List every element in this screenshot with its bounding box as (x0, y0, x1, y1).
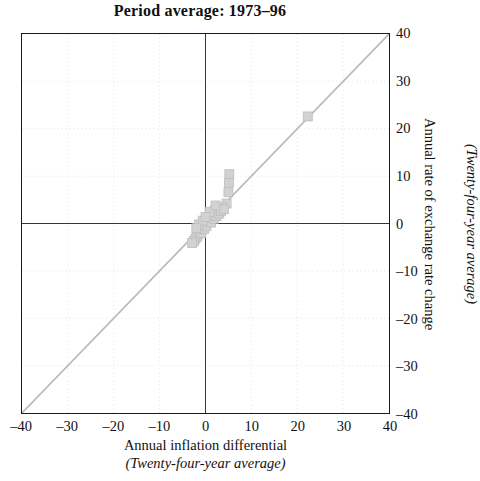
data-point (211, 201, 220, 210)
x-axis-title: Annual inflation differential (21, 437, 390, 454)
x-axis-subtitle: (Twenty-four-year average) (21, 455, 390, 472)
y-axis-subtitle-column: (Twenty-four-year average) (448, 33, 476, 414)
x-tick-label: –20 (102, 418, 124, 435)
x-tick-label: –40 (10, 418, 32, 435)
y-axis-title: Annual rate of exchange rate change (421, 117, 438, 329)
x-tick-label: 30 (337, 418, 352, 435)
data-point (192, 224, 201, 233)
y-tick-label: –40 (396, 406, 418, 423)
data-point (224, 178, 233, 187)
x-tick-label: –10 (149, 418, 171, 435)
data-point (224, 188, 233, 197)
plot-frame (21, 33, 390, 414)
y-tick-label: 10 (396, 167, 411, 184)
data-point (188, 238, 197, 247)
plot-area (22, 34, 389, 413)
y-tick-label: 20 (396, 120, 411, 137)
y-axis-title-group: Annual rate of exchange rate change (Twe… (424, 33, 480, 414)
x-tick-label: 20 (291, 418, 306, 435)
data-point (201, 212, 210, 221)
x-tick-label: 10 (244, 418, 259, 435)
y-axis-subtitle: (Twenty-four-year average) (463, 143, 480, 303)
x-tick-label: –30 (56, 418, 78, 435)
y-tick-label: –20 (396, 310, 418, 327)
data-point (225, 170, 234, 179)
data-points-layer (22, 34, 389, 413)
y-tick-label: 0 (396, 215, 403, 232)
scatter-plot-figure: Period average: 1973–96 –40–30–20–100102… (0, 0, 480, 481)
data-point (303, 112, 312, 121)
y-tick-label: 30 (396, 72, 411, 89)
x-tick-label: 0 (202, 418, 209, 435)
data-point (219, 205, 228, 214)
y-tick-label: –30 (396, 358, 418, 375)
y-tick-label: –10 (396, 263, 418, 280)
chart-title: Period average: 1973–96 (0, 2, 400, 20)
y-tick-label: 40 (396, 25, 411, 42)
